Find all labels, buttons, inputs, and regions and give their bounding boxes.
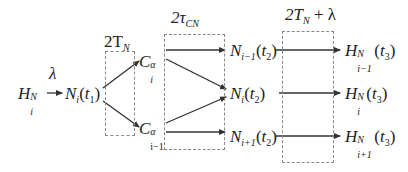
node-c-i-1-alpha: Cαi−1 bbox=[139, 120, 150, 137]
stage-label-2tn: 2TN bbox=[104, 33, 130, 53]
node-h-i-1-t3: HNi−1(t3) bbox=[345, 42, 395, 62]
node-n-i-t2: Ni(t2) bbox=[230, 85, 265, 105]
stage-box-2tn bbox=[105, 51, 135, 136]
node-n-i+1-t2: Ni+1(t2) bbox=[230, 128, 277, 148]
node-n-i-t1: Ni(t1) bbox=[65, 85, 100, 105]
stage-label-2tau-cn: 2τCN bbox=[171, 9, 199, 29]
stage-box-2tau-cn bbox=[164, 34, 225, 150]
lambda-label: λ bbox=[49, 65, 56, 82]
node-n-i-1-t2: Ni−1(t2) bbox=[230, 42, 277, 62]
node-h-i-t3: HNi(t3) bbox=[345, 85, 387, 105]
stage-box-2tn-plus-lambda bbox=[282, 31, 334, 163]
stage-label-2tn-plus-lambda: 2TN + λ bbox=[285, 6, 336, 26]
node-h-i+1-t3: HNi+1(t3) bbox=[345, 128, 395, 148]
node-h-i-source: HNi bbox=[18, 85, 30, 102]
node-c-i-alpha: Cαi bbox=[139, 53, 150, 70]
